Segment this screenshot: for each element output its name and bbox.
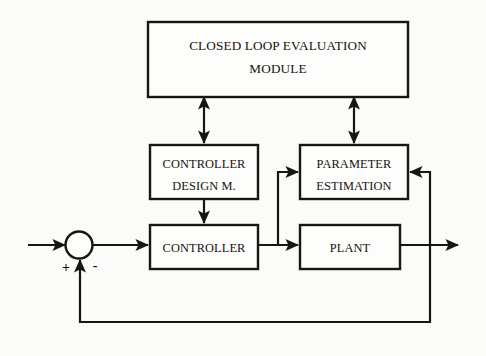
block-diagram: CLOSED LOOP EVALUATION MODULE CONTROLLER… xyxy=(0,0,486,356)
block-diagram-canvas: CLOSED LOOP EVALUATION MODULE CONTROLLER… xyxy=(0,0,486,356)
block-label-controller-design-m-line1: CONTROLLER xyxy=(163,157,247,171)
connector-plant-output-to-parameter-estimation xyxy=(410,172,430,245)
block-parameter-estimation[interactable]: PARAMETER ESTIMATION xyxy=(300,145,408,199)
block-label-plant: PLANT xyxy=(330,241,371,255)
block-plant[interactable]: PLANT xyxy=(300,225,400,269)
block-label-parameter-estimation-line2: ESTIMATION xyxy=(316,179,391,193)
block-label-controller: CONTROLLER xyxy=(163,241,247,255)
block-closed-loop-evaluation-module[interactable]: CLOSED LOOP EVALUATION MODULE xyxy=(148,22,408,97)
summing-junction-plus-sign: + xyxy=(62,260,70,275)
connector-control-signal-to-parameter-estimation xyxy=(278,172,298,245)
summing-junction-minus-sign: - xyxy=(93,258,98,273)
block-label-closed-loop-evaluation-module-line2: MODULE xyxy=(249,61,306,76)
block-controller-design-m[interactable]: CONTROLLER DESIGN M. xyxy=(150,145,258,199)
block-label-closed-loop-evaluation-module-line1: CLOSED LOOP EVALUATION xyxy=(189,38,367,53)
block-label-controller-design-m-line2: DESIGN M. xyxy=(172,179,236,193)
block-label-parameter-estimation-line1: PARAMETER xyxy=(317,157,392,171)
block-controller[interactable]: CONTROLLER xyxy=(150,225,258,269)
